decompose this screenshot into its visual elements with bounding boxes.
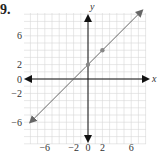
y-tick-label: 0	[17, 74, 22, 85]
x-tick-label: 0	[86, 142, 91, 153]
x-tick-label: 6	[129, 142, 134, 153]
coordinate-plane: −6−2026620−2−6xy	[0, 0, 158, 155]
tick-labels: −6−2026620−2−6xy	[11, 1, 157, 153]
x-tick-label: −2	[68, 142, 79, 153]
y-tick-label: −2	[11, 88, 22, 99]
x-tick-label: 2	[100, 142, 105, 153]
data-point	[100, 48, 104, 52]
data-point	[86, 62, 90, 66]
y-tick-label: −6	[11, 117, 22, 128]
x-axis-label: x	[151, 73, 157, 84]
y-axis-label: y	[89, 1, 95, 12]
x-tick-label: −6	[39, 142, 50, 153]
data-line	[30, 11, 142, 123]
y-tick-label: 6	[17, 30, 22, 41]
y-tick-label: 2	[17, 59, 22, 70]
